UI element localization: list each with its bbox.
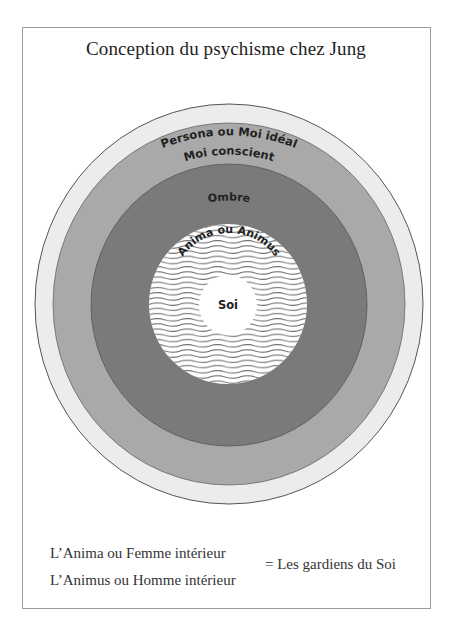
- label-soi: Soi: [218, 298, 238, 312]
- legend-animus: L’Animus ou Homme intérieur: [50, 572, 236, 589]
- legend-anima: L’Anima ou Femme intérieur: [50, 545, 226, 562]
- psyche-diagram: Persona ou Moi idéal Moi conscient Ombre…: [0, 0, 452, 632]
- legend-gardiens-du-soi: = Les gardiens du Soi: [265, 556, 396, 573]
